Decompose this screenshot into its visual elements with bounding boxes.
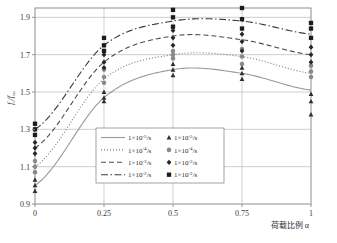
legend-line-label-3: 1×10-2/s bbox=[128, 171, 152, 179]
marker-circle bbox=[167, 148, 172, 153]
chart-container: 00.250.50.7510.91.11.31.51.71.9荷载比例 αfc/… bbox=[0, 0, 337, 243]
marker-square bbox=[171, 25, 175, 29]
marker-square bbox=[240, 17, 244, 21]
ytick-label: 0.9 bbox=[20, 200, 30, 209]
marker-square bbox=[309, 36, 313, 40]
marker-square bbox=[171, 8, 175, 12]
marker-square bbox=[240, 6, 244, 10]
marker-circle bbox=[171, 49, 176, 54]
marker-circle bbox=[102, 80, 107, 85]
legend-marker-label-1: 1×10-4/s bbox=[174, 146, 198, 154]
marker-circle bbox=[240, 54, 245, 59]
xtick-label: 0.25 bbox=[97, 209, 111, 218]
xtick-label: 0 bbox=[33, 209, 37, 218]
marker-circle bbox=[33, 170, 38, 175]
marker-square bbox=[167, 173, 171, 177]
legend-marker-label-2: 1×10-3/s bbox=[174, 159, 198, 167]
y-axis-title: fc/fcu bbox=[6, 91, 16, 105]
marker-square bbox=[33, 133, 37, 137]
legend-line-label-1: 1×10-4/s bbox=[128, 146, 152, 154]
legend-marker-label-3: 1×10-2/s bbox=[174, 171, 198, 179]
stress-rate-chart: 00.250.50.7510.91.11.31.51.71.9荷载比例 αfc/… bbox=[0, 0, 337, 243]
legend-line-label-2: 1×10-3/s bbox=[128, 159, 152, 167]
marker-square bbox=[171, 15, 175, 19]
marker-circle bbox=[33, 159, 38, 164]
marker-circle bbox=[240, 62, 245, 67]
xtick-label: 1 bbox=[309, 209, 313, 218]
y-axis-title-text: fc/fcu bbox=[6, 91, 16, 105]
x-axis-title: 荷载比例 α bbox=[271, 220, 310, 230]
marker-square bbox=[309, 21, 313, 25]
xtick-label: 0.5 bbox=[168, 209, 178, 218]
ytick-label: 1.7 bbox=[20, 51, 30, 60]
ytick-label: 1.1 bbox=[20, 163, 30, 172]
ytick-label: 1.3 bbox=[20, 125, 30, 134]
marker-square bbox=[33, 122, 37, 126]
xtick-label: 0.75 bbox=[235, 209, 249, 218]
marker-square bbox=[240, 26, 244, 30]
legend-line-label-0: 1×10-5/s bbox=[128, 134, 152, 142]
marker-square bbox=[102, 49, 106, 53]
legend-marker-label-0: 1×10-5/s bbox=[174, 134, 198, 142]
ytick-label: 1.9 bbox=[20, 13, 30, 22]
marker-square bbox=[102, 36, 106, 40]
marker-circle bbox=[102, 75, 107, 80]
marker-circle bbox=[309, 75, 314, 80]
marker-square bbox=[309, 26, 313, 30]
marker-square bbox=[102, 43, 106, 47]
ytick-label: 1.5 bbox=[20, 88, 30, 97]
marker-circle bbox=[309, 69, 314, 74]
